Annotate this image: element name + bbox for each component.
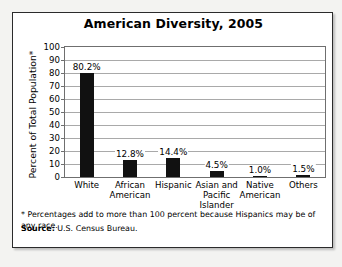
y-axis-tick-label: 0 (30, 172, 60, 182)
bar[interactable] (210, 171, 224, 177)
chart-figure: American Diversity, 2005 Percent of Tota… (12, 12, 333, 248)
chart-title: American Diversity, 2005 (13, 16, 334, 31)
bar-value-label: 14.4% (158, 147, 188, 157)
y-axis-tick-label: 60 (30, 94, 60, 104)
gridline (65, 60, 325, 61)
bar[interactable] (296, 175, 310, 177)
y-axis-tick-mark (61, 164, 65, 165)
gridline (65, 125, 325, 126)
gridline (65, 138, 325, 139)
gridline (65, 73, 325, 74)
y-axis-tick-mark (61, 112, 65, 113)
bar[interactable] (123, 160, 137, 177)
bar-value-label: 80.2% (72, 62, 102, 72)
y-axis-tick-mark (61, 99, 65, 100)
bar[interactable] (166, 158, 180, 177)
y-axis-tick-label: 20 (30, 146, 60, 156)
y-axis-tick-mark (61, 138, 65, 139)
y-axis-tick-label: 90 (30, 55, 60, 65)
source-label: Source: (21, 224, 55, 233)
bar-value-label: 12.8% (115, 149, 145, 159)
source-value: U.S. Census Bureau. (57, 224, 137, 233)
y-axis-tick-label: 10 (30, 159, 60, 169)
y-axis-tick-mark (61, 47, 65, 48)
x-axis-category-label: Others (277, 181, 329, 191)
y-axis-tick-mark (61, 73, 65, 74)
y-axis-tick-label: 70 (30, 81, 60, 91)
bar-value-label: 1.5% (291, 164, 315, 174)
gridline (65, 99, 325, 100)
bar-value-label: 1.0% (248, 165, 272, 175)
bar-value-label: 4.5% (204, 160, 228, 170)
y-axis-tick-label: 40 (30, 120, 60, 130)
y-axis-tick-mark (61, 125, 65, 126)
page-background: American Diversity, 2005 Percent of Tota… (0, 0, 342, 267)
plot-area: 010203040506070809010080.2%White12.8%Afr… (64, 46, 326, 178)
source-line: Source: U.S. Census Bureau. (21, 223, 326, 234)
y-axis-tick-mark (61, 60, 65, 61)
gridline (65, 164, 325, 165)
y-axis-tick-label: 50 (30, 107, 60, 117)
y-axis-tick-label: 30 (30, 133, 60, 143)
gridline (65, 86, 325, 87)
y-axis-tick-mark (61, 151, 65, 152)
bar[interactable] (253, 176, 267, 178)
bar[interactable] (80, 73, 94, 177)
y-axis-tick-mark (61, 177, 65, 178)
gridline (65, 151, 325, 152)
y-axis-tick-mark (61, 86, 65, 87)
gridline (65, 112, 325, 113)
y-axis-tick-label: 100 (30, 42, 60, 52)
y-axis-tick-label: 80 (30, 68, 60, 78)
